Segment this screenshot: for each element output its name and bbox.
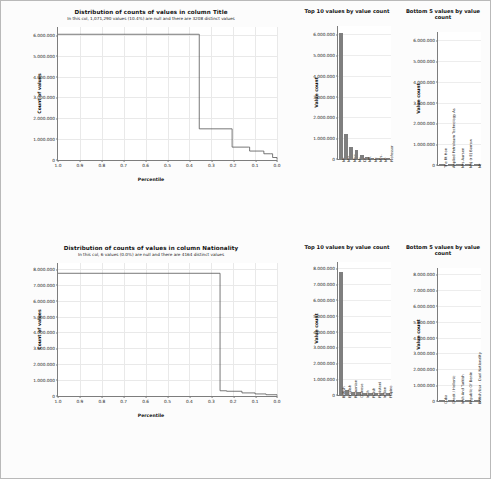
y-axis-tick: 1.000.000	[313, 136, 335, 141]
y-axis-tick: 8.000.000	[33, 267, 55, 272]
y-axis-tick: 6.000.000	[33, 298, 55, 303]
y-axis-tick: 6.000.000	[413, 38, 435, 43]
y-axis-tick: 0	[332, 392, 335, 397]
plot-area-wrapper: Count of values Percentile 01.000.0002.0…	[11, 261, 291, 439]
gridline-horizontal	[438, 103, 481, 104]
gridline-horizontal	[438, 306, 481, 307]
panel-title: Bottom 5 values by value count	[399, 9, 487, 21]
x-axis-tick: 1.0	[55, 163, 62, 168]
bar-category-label: Pakistani	[378, 382, 382, 398]
y-axis-tick: 4.000.000	[413, 335, 435, 340]
bar-category-label: Indian	[383, 387, 387, 398]
x-axis-label: Percentile	[138, 177, 164, 182]
gridline-vertical	[277, 263, 278, 396]
y-axis-tick: 3.000.000	[33, 346, 55, 351]
panel-title: Top 10 values by value count	[297, 245, 397, 251]
y-axis-tick: 6.000.000	[413, 303, 435, 308]
x-axis-tick: 0.2	[230, 399, 237, 404]
y-axis-tick: 3.000.000	[313, 345, 335, 350]
x-axis-tick: 0.8	[98, 163, 105, 168]
gridline-horizontal	[338, 34, 391, 35]
bar-category-label: Filipino	[389, 385, 393, 398]
x-axis-tick: 0.3	[208, 163, 215, 168]
x-axis-tick: 0.0	[274, 399, 281, 404]
y-axis-tick: 7.000.000	[413, 288, 435, 293]
y-axis-tick: 3.000.000	[413, 351, 435, 356]
gridline-horizontal	[338, 347, 391, 348]
y-axis-tick: 2.000.000	[33, 362, 55, 367]
x-axis-tick: 0.8	[98, 399, 105, 404]
plot-axes: 01.000.0002.000.0003.000.0004.000.0005.0…	[437, 32, 481, 166]
y-axis-tick: 5.000.000	[313, 53, 335, 58]
bar-category-label: Chinese	[360, 384, 364, 398]
plot-area-wrapper: Value count 01.000.0002.000.0003.000.000…	[297, 24, 397, 196]
gridline-horizontal	[438, 338, 481, 339]
panel-title: Distribution of counts of values in colu…	[11, 9, 291, 15]
plot-axes: 01.000.0002.000.0003.000.0004.000.0005.0…	[337, 262, 391, 396]
gridline-horizontal	[438, 144, 481, 145]
figure-canvas: Distribution of counts of values in colu…	[0, 0, 491, 479]
gridline-horizontal	[438, 322, 481, 323]
y-axis-tick: 2.000.000	[33, 116, 55, 121]
x-axis-tick: 0.4	[186, 399, 193, 404]
y-axis-tick: 0	[52, 157, 55, 162]
gridline-horizontal	[338, 76, 391, 77]
y-axis-tick: 6.000.000	[313, 297, 335, 302]
gridline-horizontal	[338, 97, 391, 98]
panel-top10-nationality: Top 10 values by value count Value count…	[297, 241, 397, 473]
gridline-horizontal	[338, 316, 391, 317]
y-axis-tick: 5.000.000	[33, 314, 55, 319]
y-axis-label: Value count	[314, 77, 319, 108]
y-axis-tick: 6.000.000	[33, 33, 55, 38]
y-axis-tick: 1.000.000	[33, 136, 55, 141]
x-axis-tick: 0.1	[252, 163, 259, 168]
gridline-horizontal	[438, 61, 481, 62]
y-axis-tick: 4.000.000	[33, 74, 55, 79]
plot-axes: 01.000.0002.000.0003.000.0004.000.0005.0…	[57, 263, 277, 397]
panel-title: Top 10 values by value count	[297, 9, 397, 15]
plot-area-wrapper: Count of values Percentile 01.000.0002.0…	[11, 25, 291, 203]
x-axis-tick: 0.7	[120, 163, 127, 168]
x-axis-tick: 0.6	[142, 399, 149, 404]
plot-area-wrapper: Value count 01.000.0002.000.0003.000.000…	[399, 30, 487, 202]
gridline-horizontal	[438, 290, 481, 291]
x-axis-tick: 0.7	[120, 399, 127, 404]
panel-distribution-nationality: Distribution of counts of values in colu…	[11, 241, 291, 473]
plot-axes: 01.000.0002.000.0003.000.0004.000.0005.0…	[57, 27, 277, 161]
y-axis-tick: 3.000.000	[413, 100, 435, 105]
step-line-series	[58, 263, 277, 396]
bar	[339, 272, 343, 395]
y-axis-tick: 1.000.000	[33, 377, 55, 382]
y-axis-tick: 8.000.000	[413, 272, 435, 277]
y-axis-label: Value count	[416, 83, 421, 114]
x-axis-tick: 0.3	[208, 399, 215, 404]
x-axis-tick: 0.2	[230, 163, 237, 168]
bar-category-label: Mr	[478, 163, 482, 168]
x-axis-tick: 0.9	[76, 163, 83, 168]
gridline-horizontal	[338, 268, 391, 269]
y-axis-tick: 5.000.000	[313, 313, 335, 318]
gridline-horizontal	[438, 274, 481, 275]
bar-category-label: Republic Of Benin	[469, 372, 473, 404]
panel-distribution-title: Distribution of counts of values in colu…	[11, 5, 291, 237]
y-axis-tick: 4.000.000	[33, 330, 55, 335]
y-axis-tick: 6.000.000	[313, 32, 335, 37]
chart-row-nationality-column: Distribution of counts of values in colu…	[1, 241, 491, 473]
y-axis-tick: 0	[432, 162, 435, 167]
gridline-horizontal	[438, 353, 481, 354]
y-axis-tick: 3.000.000	[33, 95, 55, 100]
bar-category-label: Romanian	[354, 380, 358, 398]
y-axis-tick: 1.000.000	[313, 377, 335, 382]
gridline-horizontal	[338, 379, 391, 380]
panel-bottom5-title: Bottom 5 values by value count Value cou…	[399, 5, 487, 237]
plot-axes: 01.000.0002.000.0003.000.0004.000.0005.0…	[337, 26, 391, 160]
y-axis-tick: 0	[432, 398, 435, 403]
y-axis-tick: 8.000.000	[313, 266, 335, 271]
y-axis-tick: 1.000.000	[413, 383, 435, 388]
y-axis-tick: 1.000.000	[413, 142, 435, 147]
y-axis-tick: 0	[332, 156, 335, 161]
chart-row-title-column: Distribution of counts of values in colu…	[1, 5, 491, 237]
step-line-series	[58, 27, 277, 160]
gridline-horizontal	[438, 82, 481, 83]
y-axis-tick: 4.000.000	[313, 73, 335, 78]
